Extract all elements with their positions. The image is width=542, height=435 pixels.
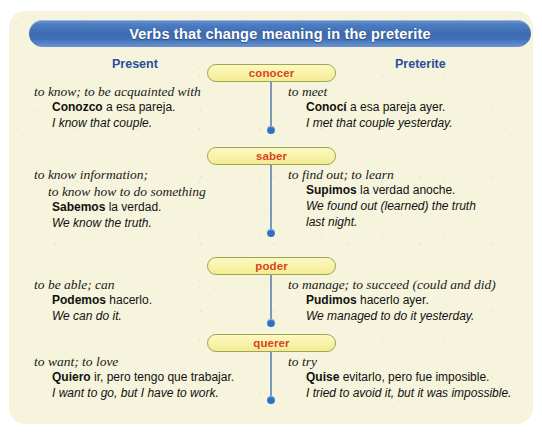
translation-line: We managed to do it yesterday. bbox=[288, 309, 532, 325]
preterite-entry-conocer: to meet Conocí a esa pareja ayer. I met … bbox=[288, 83, 532, 132]
gloss-line: to know; to be acquainted with bbox=[34, 83, 259, 100]
verb-pill-saber[interactable]: saber bbox=[207, 147, 336, 165]
conjugated-verb: Sabemos bbox=[52, 200, 105, 214]
translation-line: I know that couple. bbox=[34, 116, 259, 132]
present-entry-conocer: to know; to be acquainted with Conozco a… bbox=[34, 83, 259, 132]
example-rest: evitarlo, pero fue imposible. bbox=[339, 370, 489, 384]
conjugated-verb: Quise bbox=[306, 370, 339, 384]
example-rest: la verdad. bbox=[105, 200, 161, 214]
conjugated-verb: Podemos bbox=[52, 293, 106, 307]
gloss-line: to want; to love bbox=[34, 353, 259, 370]
verb-pill-poder[interactable]: poder bbox=[207, 257, 336, 275]
gloss-line: to find out; to learn bbox=[288, 166, 532, 183]
verb-pill-querer[interactable]: querer bbox=[207, 334, 336, 352]
preterite-entry-saber: to find out; to learn Supimos la verdad … bbox=[288, 166, 532, 230]
example-rest: hacerlo. bbox=[106, 293, 152, 307]
example-rest: hacerlo ayer. bbox=[357, 293, 429, 307]
connector-line-poder bbox=[270, 275, 272, 323]
connector-line-conocer bbox=[270, 82, 272, 130]
preterite-entry-querer: to try Quise evitarlo, pero fue imposibl… bbox=[288, 353, 532, 402]
present-entry-querer: to want; to love Quiero ir, pero tengo q… bbox=[34, 353, 259, 402]
verb-pill-label: conocer bbox=[249, 67, 294, 79]
gloss-line: to meet bbox=[288, 83, 532, 100]
page-title: Verbs that change meaning in the preteri… bbox=[29, 20, 531, 47]
verb-pill-label: poder bbox=[255, 260, 287, 272]
connector-line-querer bbox=[270, 352, 272, 400]
verb-pill-label: querer bbox=[253, 337, 289, 349]
conjugated-verb: Quiero bbox=[52, 370, 91, 384]
card-title-bar: Verbs that change meaning in the preteri… bbox=[29, 20, 531, 47]
example-sentence: Quiero ir, pero tengo que trabajar. bbox=[34, 370, 259, 386]
translation-line: We found out (learned) the truth bbox=[288, 199, 532, 215]
connector-line-saber bbox=[270, 165, 272, 233]
example-sentence: Supimos la verdad anoche. bbox=[288, 183, 532, 199]
conjugated-verb: Pudimos bbox=[306, 293, 357, 307]
example-sentence: Sabemos la verdad. bbox=[34, 200, 259, 216]
gloss-line: to try bbox=[288, 353, 532, 370]
column-header-preterite: Preterite bbox=[395, 57, 446, 71]
example-sentence: Podemos hacerlo. bbox=[34, 293, 259, 309]
conjugated-verb: Supimos bbox=[306, 183, 357, 197]
translation-line: I want to go, but I have to work. bbox=[34, 386, 259, 402]
gloss-line: to know how to do something bbox=[34, 183, 259, 200]
gloss-line: to manage; to succeed (could and did) bbox=[288, 276, 532, 293]
example-rest: a esa pareja ayer. bbox=[347, 100, 446, 114]
connector-dot-conocer bbox=[267, 126, 275, 134]
gloss-line: to be able; can bbox=[34, 276, 259, 293]
translation-line: We can do it. bbox=[34, 309, 259, 325]
translation-line: We know the truth. bbox=[34, 216, 259, 232]
example-sentence: Pudimos hacerlo ayer. bbox=[288, 293, 532, 309]
verb-pill-conocer[interactable]: conocer bbox=[207, 64, 336, 82]
example-sentence: Conozco a esa pareja. bbox=[34, 100, 259, 116]
connector-dot-poder bbox=[267, 319, 275, 327]
present-entry-saber: to know information; to know how to do s… bbox=[34, 166, 259, 232]
conjugated-verb: Conocí bbox=[306, 100, 347, 114]
example-sentence: Quise evitarlo, pero fue imposible. bbox=[288, 370, 532, 386]
example-rest: la verdad anoche. bbox=[357, 183, 456, 197]
translation-line: I met that couple yesterday. bbox=[288, 116, 532, 132]
translation-line: last night. bbox=[288, 215, 532, 231]
example-sentence: Conocí a esa pareja ayer. bbox=[288, 100, 532, 116]
connector-dot-querer bbox=[267, 396, 275, 404]
connector-dot-saber bbox=[267, 229, 275, 237]
example-rest: ir, pero tengo que trabajar. bbox=[91, 370, 234, 384]
example-rest: a esa pareja. bbox=[103, 100, 176, 114]
present-entry-poder: to be able; can Podemos hacerlo. We can … bbox=[34, 276, 259, 325]
conjugated-verb: Conozco bbox=[52, 100, 103, 114]
gloss-line: to know information; bbox=[34, 166, 259, 183]
column-header-present: Present bbox=[112, 57, 158, 71]
verb-pill-label: saber bbox=[256, 150, 287, 162]
preterite-entry-poder: to manage; to succeed (could and did) Pu… bbox=[288, 276, 532, 325]
translation-line: I tried to avoid it, but it was impossib… bbox=[288, 386, 532, 402]
